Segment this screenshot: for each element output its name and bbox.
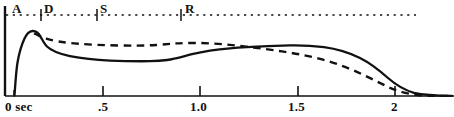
x-tick-label-2-0: 2: [391, 99, 398, 115]
phase-label-d: D: [44, 1, 53, 17]
phase-label-s: S: [100, 1, 107, 17]
x-tick-label-0: 0 sec: [5, 99, 32, 115]
x-tick-label-1-5: 1.5: [288, 99, 305, 115]
envelope-chart-figure: A D S R 0 sec .5 1.0 1.5 2: [0, 0, 454, 117]
phase-label-r: R: [185, 1, 194, 17]
x-tick-label-1-0: 1.0: [190, 99, 207, 115]
chart-canvas: [0, 0, 454, 117]
x-tick-label-0-5: .5: [98, 99, 108, 115]
dashed-envelope-curve: [34, 34, 452, 96]
solid-envelope-curve: [15, 31, 453, 96]
phase-label-a: A: [12, 1, 21, 17]
